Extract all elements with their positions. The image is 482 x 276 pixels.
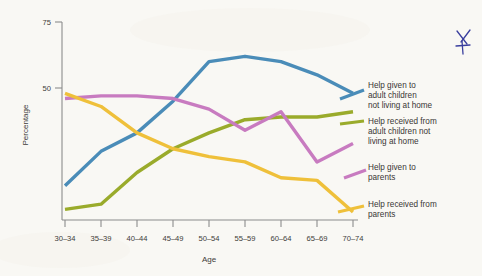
y-tick-label-75: 75 bbox=[43, 18, 51, 27]
legend-label-line: living at home bbox=[368, 137, 419, 146]
x-tick-label-6: 60–64 bbox=[270, 234, 291, 243]
y-axis-title: Percentage bbox=[21, 104, 30, 145]
x-tick-label-0: 30–34 bbox=[54, 234, 75, 243]
legend-label-line: not living at home bbox=[368, 101, 433, 110]
legend-label-line: Help received from bbox=[368, 200, 437, 209]
legend-label-line: parents bbox=[368, 210, 395, 219]
paper-smudge bbox=[130, 8, 370, 52]
legend-label-line: Help given to bbox=[368, 81, 416, 90]
x-tick-label-7: 65–69 bbox=[306, 234, 327, 243]
y-tick-label-50: 50 bbox=[43, 84, 51, 93]
x-tick-label-5: 55–59 bbox=[234, 234, 255, 243]
x-tick-label-4: 50–54 bbox=[198, 234, 219, 243]
chart-figure: 75 50 Percentage 30–34 35–39 40–44 45–49… bbox=[0, 0, 482, 276]
legend-label-line: Help given to bbox=[368, 163, 416, 172]
legend-label-line: adult children bbox=[368, 91, 417, 100]
x-tick-label-3: 45–49 bbox=[162, 234, 183, 243]
legend-label-line: parents bbox=[368, 173, 395, 182]
legend-label-line: Help received from bbox=[368, 117, 437, 126]
legend-label-line: adult children not bbox=[368, 127, 431, 136]
x-tick-label-2: 40–44 bbox=[126, 234, 147, 243]
x-tick-label-8: 70–74 bbox=[342, 234, 363, 243]
x-tick-label-1: 35–39 bbox=[90, 234, 111, 243]
line-chart-svg: 75 50 Percentage 30–34 35–39 40–44 45–49… bbox=[0, 0, 482, 276]
x-axis-title: Age bbox=[202, 255, 217, 264]
